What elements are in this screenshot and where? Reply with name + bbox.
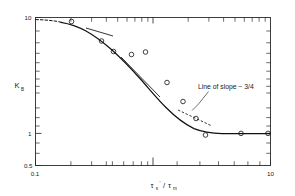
extrapolated-curve	[36, 20, 62, 23]
x-axis-title-separator: /	[163, 181, 166, 190]
y-tick-label-1: 1	[28, 130, 32, 137]
slope-annotation-label: Line of slope − 3/4	[198, 83, 254, 91]
y-tick-label-10: 10	[25, 14, 32, 21]
y-axis-ticks-left	[36, 18, 42, 166]
chart-svg: 10 1 0.5 0.1 10 K B τ s ' / τ m Line of …	[0, 0, 295, 196]
slope-guide-upper	[86, 28, 113, 36]
data-point-markers	[69, 19, 270, 137]
x-axis-title-prime: '	[160, 181, 161, 186]
x-axis-title-numerator-subscript: s	[156, 186, 159, 191]
fitted-curve	[61, 22, 270, 133]
x-axis-title-denominator-symbol: τ	[168, 181, 171, 190]
data-point	[69, 19, 74, 24]
x-axis-title-numerator-symbol: τ	[151, 181, 154, 190]
data-point	[181, 99, 186, 104]
data-point	[203, 133, 208, 138]
chart-figure-root: 10 1 0.5 0.1 10 K B τ s ' / τ m Line of …	[0, 0, 295, 196]
x-axis-title: τ s ' / τ m	[151, 181, 178, 192]
slope-guide-middle	[121, 57, 160, 97]
x-tick-label-10: 10	[267, 170, 274, 177]
x-axis-ticks-top	[71, 18, 265, 24]
x-axis-ticks-bottom	[36, 158, 271, 166]
data-point	[194, 116, 199, 121]
y-axis-title: K B	[14, 81, 24, 92]
data-point	[143, 50, 148, 55]
annotation-leader-line	[192, 92, 209, 111]
x-tick-label-0point1: 0.1	[31, 170, 40, 177]
y-axis-title-subscript: B	[21, 87, 24, 92]
y-tick-label-0point5: 0.5	[24, 162, 33, 169]
y-axis-title-symbol: K	[14, 81, 19, 90]
data-point	[129, 52, 134, 57]
x-axis-title-denominator-subscript: m	[173, 186, 177, 191]
slope-guide-lower	[178, 110, 212, 126]
plot-frame	[36, 18, 271, 166]
data-point	[165, 80, 170, 85]
